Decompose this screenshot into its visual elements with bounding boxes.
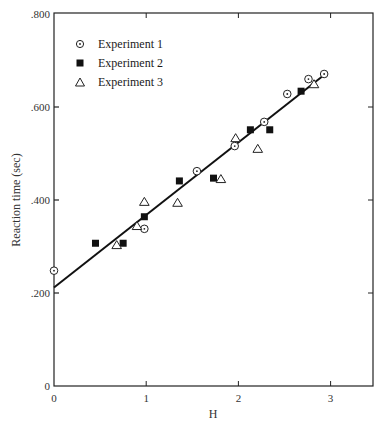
x-axis-label: H	[209, 407, 218, 421]
y-axis-label: Reaction time (sec)	[9, 153, 23, 246]
legend-label: Experiment 3	[98, 75, 163, 89]
experiment-2-point	[141, 213, 148, 220]
experiment-3-point	[173, 198, 183, 206]
open-triangle-icon	[76, 78, 85, 86]
data-points	[50, 70, 328, 274]
legend-item-experiment-1: Experiment 1	[76, 37, 163, 51]
legend: Experiment 1 Experiment 2 Experiment 3	[76, 37, 163, 89]
experiment-3-point	[231, 134, 241, 142]
legend-label: Experiment 1	[98, 37, 163, 51]
filled-square-icon	[77, 60, 84, 67]
y-tick-label: .200	[31, 287, 51, 299]
x-tick-label: 2	[236, 392, 242, 404]
legend-label: Experiment 2	[98, 56, 163, 70]
experiment-2-point	[176, 177, 183, 184]
y-tick-label: 0	[45, 380, 51, 392]
y-tick-label: .600	[31, 101, 51, 113]
experiment-2-point	[247, 126, 254, 133]
chart: 01230.200.400.600.800 Experiment 1 Exper…	[0, 0, 379, 430]
legend-item-experiment-2: Experiment 2	[77, 56, 163, 70]
y-tick-label: .400	[31, 194, 51, 206]
experiment-3-point	[253, 144, 263, 152]
experiment-2-point	[266, 126, 273, 133]
experiment-2-point	[298, 88, 305, 95]
experiment-2-point	[92, 240, 99, 247]
experiment-3-point	[140, 197, 150, 205]
x-tick-label: 3	[328, 392, 334, 404]
y-tick-label: .800	[31, 8, 51, 20]
x-tick-label: 0	[51, 392, 57, 404]
experiment-2-point	[210, 175, 217, 182]
experiment-3-point	[216, 175, 226, 183]
legend-item-experiment-3: Experiment 3	[76, 75, 163, 89]
regression-line	[54, 74, 326, 288]
experiment-2-point	[120, 240, 127, 247]
x-tick-label: 1	[143, 392, 149, 404]
